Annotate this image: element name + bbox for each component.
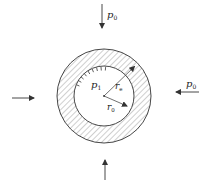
center-point <box>103 95 105 97</box>
cylinder-pressure-diagram: p0 p0 p1 re r0 <box>0 0 212 194</box>
